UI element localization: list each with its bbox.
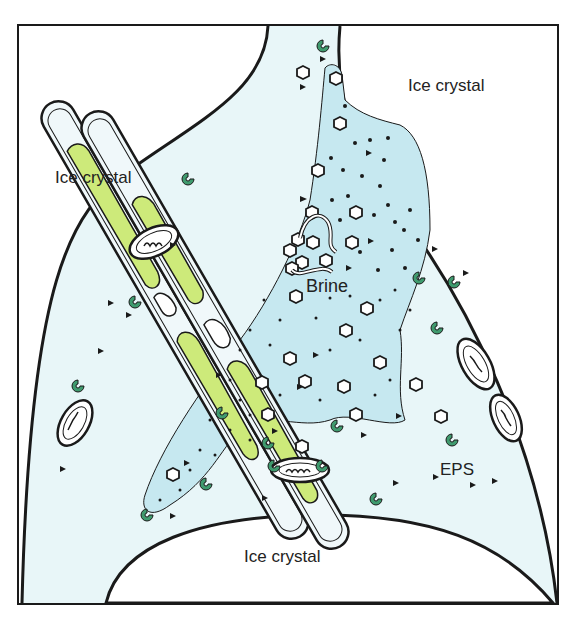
label-ice-crystal-bottom: Ice crystal: [244, 547, 321, 567]
label-eps: EPS: [440, 460, 474, 480]
label-ice-crystal-top-right: Ice crystal: [408, 76, 485, 96]
sea-ice-diagram: [0, 0, 578, 623]
label-ice-crystal-left: Ice crystal: [55, 168, 132, 188]
label-brine: Brine: [306, 276, 348, 297]
